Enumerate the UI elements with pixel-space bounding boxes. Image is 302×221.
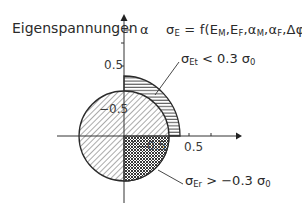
diagram-title: Eigenspannungen bbox=[12, 21, 138, 35]
tangential-leader-line bbox=[155, 62, 179, 95]
tangential-stress-annotation: σEt < 0.3 σ0 bbox=[181, 52, 255, 67]
radial-leader-line bbox=[158, 170, 183, 184]
radial-stress-annotation: σEr > −0.3 σ0 bbox=[185, 174, 271, 189]
tick-label-horizontal-neg: −0.5 bbox=[137, 140, 166, 152]
tick-label-horizontal-pos: 0.5 bbox=[184, 141, 203, 153]
axis-symbol-alpha: α bbox=[140, 23, 149, 36]
formula: σE = f(EM,EF,αM,αF,Δφ) bbox=[166, 23, 302, 38]
tick-label-vertical-pos: 0.5 bbox=[104, 59, 123, 71]
tick-label-vertical-neg: −0.5 bbox=[99, 103, 128, 115]
horizontal-axis-arrow-icon bbox=[236, 133, 242, 140]
